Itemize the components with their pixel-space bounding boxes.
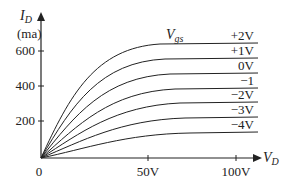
curve-minus4v — [41, 132, 258, 158]
y-axis-arrow-icon — [37, 12, 45, 21]
curve-label: −3V — [231, 102, 255, 117]
curve-minus1 — [41, 88, 258, 158]
y-axis-unit: (ma) — [17, 26, 42, 41]
x-tick-50: 50V — [137, 164, 160, 179]
curve-label: +2V — [231, 28, 255, 43]
curve-label: −2V — [231, 87, 255, 102]
curve-labels: +2V +1V 0V −1 −2V −3V −4V — [231, 28, 255, 132]
y-tick-600: 600 — [16, 43, 36, 58]
fet-characteristic-chart: ID (ma) 600 400 200 0 50V 100V VD Vgs +2… — [0, 0, 288, 184]
y-axis-label: ID — [19, 8, 33, 25]
origin-label: 0 — [36, 164, 43, 179]
x-tick-100: 100V — [222, 164, 252, 179]
curves — [41, 43, 258, 158]
curve-0v — [41, 73, 258, 158]
x-axis-label: VD — [263, 150, 280, 167]
curve-label: −4V — [231, 117, 255, 132]
y-tick-200: 200 — [16, 113, 36, 128]
y-tick-400: 400 — [16, 78, 36, 93]
curve-label: +1V — [231, 43, 255, 58]
x-axis-arrow-icon — [253, 154, 262, 162]
curve-label: 0V — [238, 58, 255, 73]
curve-label: −1 — [240, 73, 254, 88]
vgs-label: Vgs — [166, 27, 184, 44]
